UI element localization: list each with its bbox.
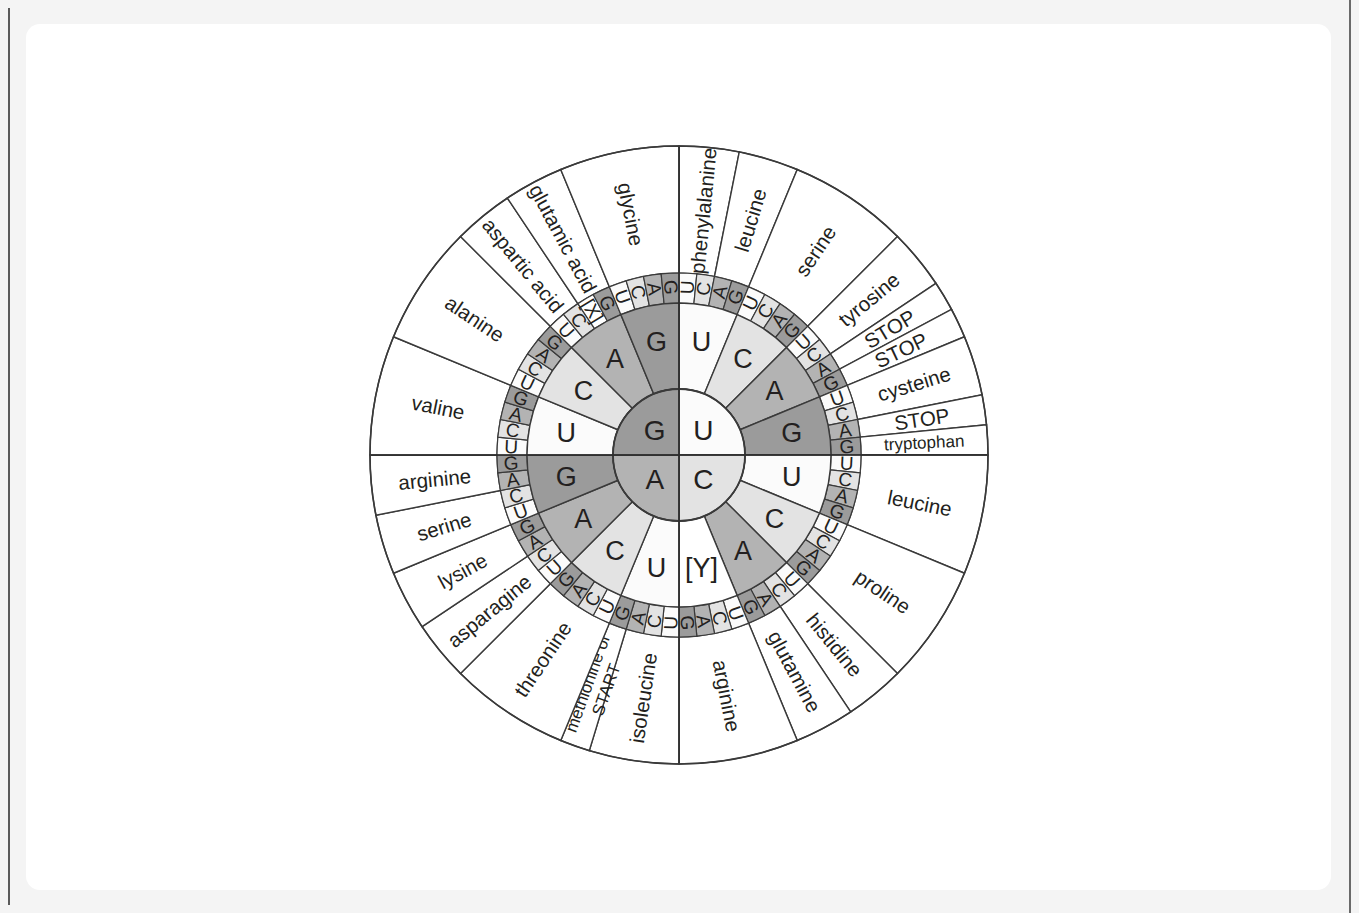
second-base-letter: U bbox=[782, 462, 802, 492]
second-base-letter: U bbox=[692, 327, 712, 357]
second-base-letter: U bbox=[647, 553, 667, 583]
page-background: phenylalanineleucineserinetyrosineSTOPST… bbox=[0, 0, 1359, 913]
wheel-svg: phenylalanineleucineserinetyrosineSTOPST… bbox=[0, 0, 1359, 913]
second-base-letter: C bbox=[733, 344, 753, 374]
second-base-letter: A bbox=[766, 376, 784, 406]
second-base-letter: C bbox=[765, 504, 785, 534]
first-base-letter: A bbox=[645, 464, 664, 495]
genetic-code-wheel: phenylalanineleucineserinetyrosineSTOPST… bbox=[0, 0, 1359, 913]
second-base-letter: [Y] bbox=[685, 553, 718, 583]
second-base-letter: U bbox=[556, 418, 576, 448]
second-base-letter: G bbox=[556, 462, 577, 492]
second-base-letter: C bbox=[574, 376, 594, 406]
second-base-letter: A bbox=[574, 504, 592, 534]
second-base-letter: G bbox=[646, 327, 667, 357]
first-base-letter: C bbox=[693, 464, 713, 495]
second-base-letter: C bbox=[605, 536, 625, 566]
amino-acid-label: tryptophan bbox=[884, 431, 965, 454]
second-base-letter: A bbox=[734, 536, 752, 566]
second-base-letter: A bbox=[606, 344, 624, 374]
second-base-letter: G bbox=[781, 418, 802, 448]
first-base-letter: U bbox=[693, 415, 713, 446]
first-base-letter: G bbox=[644, 415, 666, 446]
